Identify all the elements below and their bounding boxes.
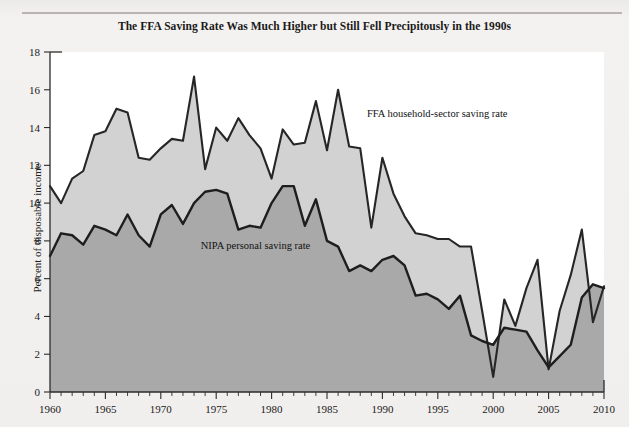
ffa-series-annotation: FFA household-sector saving rate [367, 108, 508, 119]
figure-panel: The FFA Saving Rate Was Much Higher but … [0, 0, 629, 427]
y-tick-label: 0 [35, 386, 41, 398]
y-tick-label: 4 [35, 310, 41, 322]
x-tick-label: 1990 [371, 403, 394, 415]
x-tick-label: 1995 [427, 403, 450, 415]
y-tick-label: 14 [29, 122, 41, 134]
x-tick-labels: 1960196519701975198019851990199520002005… [39, 403, 616, 415]
y-tick-label: 6 [35, 273, 41, 285]
y-tick-label: 16 [29, 84, 41, 96]
y-tick-label: 8 [35, 235, 41, 247]
x-tick-label: 1975 [205, 403, 228, 415]
y-tick-labels: 024681012141618 [29, 46, 41, 398]
x-tick-label: 1970 [150, 403, 173, 415]
chart-svg: 024681012141618 196019651970197519801985… [0, 0, 629, 427]
x-tick-label: 1985 [316, 403, 339, 415]
x-tick-label: 2005 [538, 403, 561, 415]
x-tick-label: 1960 [39, 403, 62, 415]
nipa-series-annotation: NIPA personal saving rate [201, 240, 311, 251]
y-tick-label: 2 [35, 348, 41, 360]
x-tick-label: 1965 [94, 403, 117, 415]
y-tick-label: 18 [29, 46, 41, 58]
plot-area: 024681012141618 196019651970197519801985… [0, 0, 629, 427]
y-tick-label: 12 [29, 159, 40, 171]
x-tick-label: 1980 [261, 403, 284, 415]
y-tick-label: 10 [29, 197, 41, 209]
x-tick-label: 2010 [593, 403, 616, 415]
x-tick-label: 2000 [482, 403, 505, 415]
